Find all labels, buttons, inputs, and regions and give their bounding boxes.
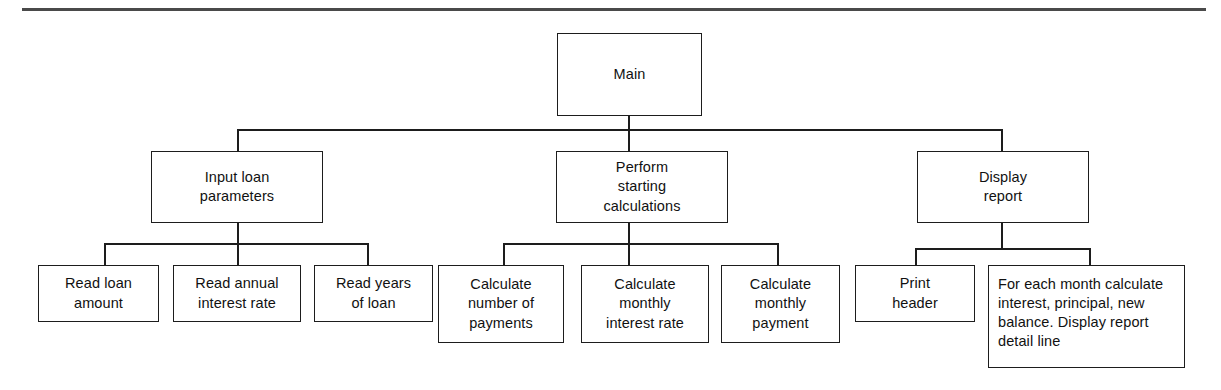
node-read-years-of-loan: Read years of loan: [314, 265, 433, 322]
connector-drop-read-annual-interest-rate: [237, 243, 239, 265]
connector-drop-for-each-month-detail: [1089, 248, 1091, 265]
node-input-loan-parameters-label: Input loan parameters: [194, 168, 280, 206]
connector-bus-group-input: [104, 243, 368, 245]
node-main-label: Main: [608, 65, 652, 84]
connector-bus-group-calculations: [503, 243, 778, 245]
node-print-header-label: Print header: [886, 274, 944, 312]
top-horizontal-rule: [22, 8, 1206, 11]
node-display-report: Display report: [917, 151, 1089, 223]
connector-stem-input-loan-parameters: [237, 223, 239, 243]
node-for-each-month-detail-label: For each month calculate interest, princ…: [989, 266, 1184, 352]
node-calculate-monthly-interest-rate: Calculate monthly interest rate: [581, 265, 709, 343]
node-read-years-of-loan-label: Read years of loan: [330, 274, 417, 312]
connector-drop-calculate-monthly-interest-rate: [628, 243, 630, 265]
node-input-loan-parameters: Input loan parameters: [151, 151, 323, 223]
connector-drop-print-header: [915, 248, 917, 265]
connector-stem-display-report: [1001, 223, 1003, 248]
connector-drop-read-loan-amount: [104, 243, 106, 265]
node-read-annual-interest-rate-label: Read annual interest rate: [189, 274, 284, 312]
node-calculate-monthly-payment: Calculate monthly payment: [721, 265, 840, 343]
connector-bus-group-report: [915, 248, 1090, 250]
node-calculate-monthly-interest-rate-label: Calculate monthly interest rate: [600, 275, 690, 332]
node-for-each-month-detail: For each month calculate interest, princ…: [988, 265, 1185, 368]
node-read-annual-interest-rate: Read annual interest rate: [173, 265, 301, 322]
node-perform-starting-calculations: Perform starting calculations: [556, 151, 728, 223]
connector-drop-input-loan-parameters: [237, 129, 239, 152]
node-main: Main: [557, 33, 702, 116]
connector-stem-perform-starting-calculations: [628, 223, 630, 243]
connector-drop-calculate-number-of-payments: [503, 243, 505, 265]
structure-chart-canvas: Main Input loan parameters Perform start…: [0, 0, 1221, 390]
node-calculate-number-of-payments-label: Calculate number of payments: [462, 275, 540, 332]
connector-drop-perform-starting-calculations: [628, 129, 630, 152]
node-print-header: Print header: [855, 265, 975, 322]
node-perform-starting-calculations-label: Perform starting calculations: [598, 158, 687, 215]
node-calculate-monthly-payment-label: Calculate monthly payment: [744, 275, 817, 332]
node-calculate-number-of-payments: Calculate number of payments: [438, 265, 564, 343]
connector-main-stem: [628, 116, 630, 130]
node-display-report-label: Display report: [973, 168, 1033, 206]
connector-level2-bus: [237, 129, 1002, 131]
node-read-loan-amount-label: Read loan amount: [59, 274, 138, 312]
connector-drop-display-report: [1001, 129, 1003, 152]
node-read-loan-amount: Read loan amount: [38, 265, 159, 322]
connector-drop-calculate-monthly-payment: [777, 243, 779, 265]
connector-drop-read-years-of-loan: [367, 243, 369, 265]
